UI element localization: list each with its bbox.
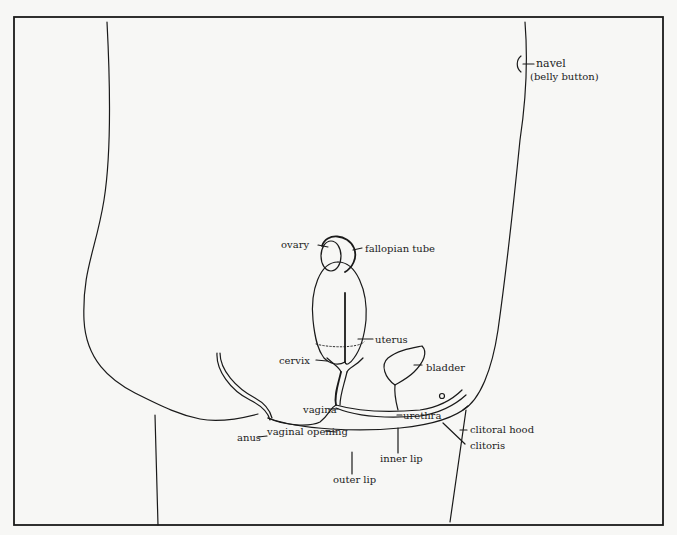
label-anus: anus bbox=[237, 432, 261, 444]
vagina-canal-right bbox=[340, 372, 347, 405]
label-ovary: ovary bbox=[281, 239, 309, 251]
belly-front-contour bbox=[463, 22, 526, 410]
label-vagina: vagina bbox=[303, 404, 337, 416]
inner-lip-lower bbox=[336, 395, 466, 417]
label-navel-sub: (belly button) bbox=[530, 71, 599, 83]
urethra-shape bbox=[395, 385, 398, 410]
back-buttock-contour bbox=[84, 22, 258, 420]
rectum-line-inner bbox=[220, 353, 272, 418]
label-vaginal-opening: vaginal opening bbox=[267, 426, 348, 438]
label-bladder: bladder bbox=[426, 362, 465, 374]
rectum-line-outer bbox=[217, 353, 270, 420]
label-uterus: uterus bbox=[375, 334, 408, 346]
clitoris-shape bbox=[440, 394, 445, 399]
uterus-outline bbox=[312, 262, 345, 364]
label-urethra: urethra bbox=[403, 410, 441, 422]
label-cervix: cervix bbox=[279, 355, 310, 367]
diagram-canvas: navel (belly button) ovary fallopian tub… bbox=[0, 0, 677, 535]
thigh-front-contour bbox=[450, 410, 466, 522]
uterus-outline-right bbox=[338, 262, 366, 364]
ovary-shape bbox=[321, 241, 341, 271]
cervix-dotted-line bbox=[316, 342, 364, 347]
border-frame bbox=[14, 17, 663, 525]
label-clitoris: clitoris bbox=[470, 440, 505, 452]
leader-clitoris bbox=[443, 423, 465, 444]
leader-cervix bbox=[316, 360, 327, 361]
label-outer-lip: outer lip bbox=[333, 474, 376, 486]
thigh-back-contour bbox=[155, 415, 158, 525]
label-clitoral-hood: clitoral hood bbox=[470, 424, 534, 436]
navel-shape bbox=[517, 56, 521, 72]
label-inner-lip: inner lip bbox=[380, 453, 423, 465]
label-navel: navel bbox=[536, 58, 566, 70]
label-fallopian-tube: fallopian tube bbox=[365, 243, 435, 255]
